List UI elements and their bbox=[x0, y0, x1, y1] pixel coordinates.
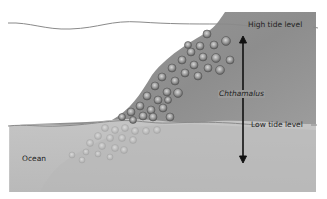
ocean-label: Ocean bbox=[22, 155, 46, 163]
shore-illustration bbox=[0, 0, 327, 199]
low-tide-label: Low tide level bbox=[251, 121, 303, 129]
rocky-shore-diagram: High tide level Low tide level Chthamalu… bbox=[0, 0, 327, 199]
high-tide-label: High tide level bbox=[248, 21, 302, 29]
species-label: Chthamalus bbox=[218, 90, 265, 98]
